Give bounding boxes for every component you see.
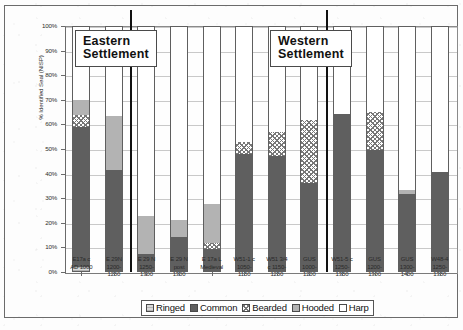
bar-segment-bearded	[73, 115, 89, 127]
bar-segment-common	[269, 156, 285, 271]
y-axis-tick-mark	[61, 124, 65, 125]
bar-column[interactable]	[203, 26, 221, 272]
y-axis-tick-label: 60%	[9, 120, 57, 127]
x-axis-tick-mark	[309, 272, 310, 276]
bar-column[interactable]	[235, 26, 253, 272]
bar-segment-hooded	[106, 116, 122, 170]
bar-segment-hooded	[171, 220, 187, 237]
x-axis-tick-line: W48-4	[417, 256, 463, 264]
bar-segment-hooded	[204, 204, 220, 243]
y-axis-tick-label: 90%	[9, 47, 57, 54]
bar-segment-common	[236, 154, 252, 271]
bar-segment-hooded	[138, 216, 154, 254]
x-axis-tick-mark	[81, 272, 82, 276]
x-axis-tick-mark	[179, 272, 180, 276]
legend-swatch-harp	[339, 304, 347, 312]
y-axis-tick-mark	[61, 198, 65, 199]
legend-label: Bearded	[252, 302, 287, 313]
x-axis-tick-mark	[277, 272, 278, 276]
y-axis-tick-mark	[61, 272, 65, 273]
x-axis-tick-mark	[407, 272, 408, 276]
bar-segment-harp	[171, 27, 187, 220]
y-axis-tick-label: 10%	[9, 243, 57, 250]
legend-item-common[interactable]: Common	[190, 302, 237, 313]
y-axis-tick-label: 70%	[9, 96, 57, 103]
legend-swatch-ringed	[146, 304, 154, 312]
legend-label: Hooded	[302, 302, 334, 313]
x-axis-tick-mark	[440, 272, 441, 276]
y-axis-tick-label: 80%	[9, 71, 57, 78]
bar-segment-bearded	[367, 112, 383, 150]
bar-segment-harp	[367, 27, 383, 112]
annotation-eastern-line2: Settlement	[83, 48, 149, 61]
y-axis-tick-mark	[61, 223, 65, 224]
legend-label: Harp	[349, 302, 369, 313]
bar-segment-bearded	[236, 142, 252, 154]
chart-legend: RingedCommonBeardedHoodedHarp	[141, 300, 374, 316]
y-axis-tick-mark	[61, 174, 65, 175]
legend-item-hooded[interactable]: Hooded	[292, 302, 334, 313]
y-axis-tick-label: 100%	[9, 22, 57, 29]
annotation-western-settlement: Western Settlement	[270, 30, 352, 67]
x-axis-tick-mark	[146, 272, 147, 276]
x-axis-tick-mark	[375, 272, 376, 276]
bar-segment-common	[73, 127, 89, 267]
legend-swatch-common	[190, 304, 198, 312]
y-axis-tick-mark	[61, 51, 65, 52]
x-axis-tick-line: 1250-	[417, 264, 463, 272]
bar-segment-hooded	[73, 100, 89, 115]
y-axis-tick-mark	[61, 149, 65, 150]
bar-segment-common	[367, 150, 383, 271]
bar-column[interactable]	[170, 26, 188, 272]
legend-item-bearded[interactable]: Bearded	[242, 302, 287, 313]
y-axis-tick-label: 30%	[9, 194, 57, 201]
legend-swatch-hooded	[292, 304, 300, 312]
legend-label: Ringed	[156, 302, 185, 313]
legend-item-harp[interactable]: Harp	[339, 302, 369, 313]
y-axis-label: % Identified Seal (NISP)	[37, 13, 44, 163]
bar-segment-common	[334, 114, 350, 271]
y-axis-tick-label: 20%	[9, 219, 57, 226]
y-axis-tick-mark	[61, 247, 65, 248]
y-axis-tick-mark	[61, 26, 65, 27]
bar-segment-harp	[399, 27, 415, 190]
bar-segment-harp	[236, 27, 252, 142]
x-axis-tick-mark	[244, 272, 245, 276]
y-axis-tick-mark	[61, 100, 65, 101]
y-axis-tick-label: 0%	[9, 268, 57, 275]
annotation-eastern-settlement: Eastern Settlement	[75, 30, 157, 67]
annotation-western-line2: Settlement	[278, 48, 344, 61]
x-axis-tick-mark	[342, 272, 343, 276]
y-axis-tick-label: 50%	[9, 145, 57, 152]
legend-item-ringed[interactable]: Ringed	[146, 302, 185, 313]
bar-segment-harp	[432, 27, 448, 172]
x-axis-tick-mark	[212, 272, 213, 276]
bar-column[interactable]	[398, 26, 416, 272]
x-axis-tick-mark	[114, 272, 115, 276]
y-axis-tick-label: 40%	[9, 170, 57, 177]
y-axis-tick-mark	[61, 75, 65, 76]
bar-column[interactable]	[431, 26, 449, 272]
legend-swatch-bearded	[242, 304, 250, 312]
bar-segment-harp	[204, 27, 220, 204]
legend-label: Common	[200, 302, 237, 313]
bar-column[interactable]	[366, 26, 384, 272]
bar-segment-bearded	[301, 120, 317, 183]
chart-screenshot: % Identified Seal (NISP) 100%90%80%70%60…	[0, 0, 463, 330]
chart-outer-frame: % Identified Seal (NISP) 100%90%80%70%60…	[4, 5, 458, 318]
bar-segment-bearded	[269, 132, 285, 156]
